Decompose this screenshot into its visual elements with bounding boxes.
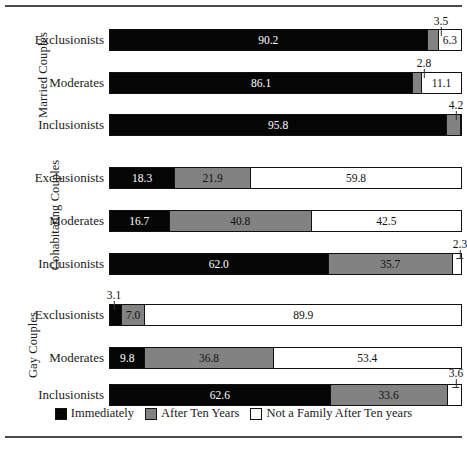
bar-married-moderates[interactable]: 86.1 2.8 11.1 [109, 72, 462, 94]
callout-value: 2.8 [417, 57, 431, 69]
segment-not-a-family[interactable]: 53.4 [274, 348, 461, 368]
legend-item-immediately[interactable]: Immediately [55, 406, 134, 421]
callout-value: 3.6 [449, 367, 463, 379]
segment-value: 42.5 [376, 215, 396, 227]
row-label-gay-inclusionists: Inclusionists [0, 382, 104, 408]
segment-value: 11.1 [432, 77, 452, 89]
segment-value: 40.8 [230, 215, 250, 227]
segment-not-a-family[interactable]: 42.5 [312, 211, 461, 231]
segment-value: 89.9 [293, 309, 313, 321]
segment-value: 21.9 [203, 172, 223, 184]
bar-gay-inclusionists[interactable]: 62.6 33.6 3.6 [109, 384, 462, 406]
segment-value: 53.4 [357, 352, 377, 364]
callout-gay-inclusionists-not-a-family: 3.6 [449, 367, 463, 388]
segment-after-ten-years[interactable]: 33.6 [330, 385, 448, 405]
callout-cohabitating-inclusionists-not-a-family: 2.3 [453, 238, 467, 259]
segment-value: 59.8 [346, 172, 366, 184]
segment-after-ten-years[interactable]: 21.9 [174, 168, 251, 188]
legend-swatch-immediately-icon [55, 408, 67, 420]
table-row: Moderates 86.1 2.8 11.1 2.8 [0, 70, 467, 96]
legend-label-after-ten-years: After Ten Years [161, 406, 239, 421]
table-row: Inclusionists 62.6 33.6 3.6 3.6 [0, 382, 467, 408]
legend-item-not-a-family[interactable]: Not a Family After Ten years [250, 406, 412, 421]
bar-cohabitating-exclusionists[interactable]: 18.3 21.9 59.8 [109, 167, 462, 189]
callout-value: 4.2 [449, 99, 463, 111]
segment-after-ten-years[interactable]: 40.8 [169, 211, 312, 231]
callout-married-moderates-after-ten-years: 2.8 [417, 57, 431, 78]
chart-legend: Immediately After Ten Years Not a Family… [0, 406, 467, 421]
segment-not-a-family[interactable]: 3.6 [448, 385, 461, 405]
segment-immediately[interactable]: 95.8 [110, 115, 446, 135]
row-label-married-exclusionists: Exclusionists [0, 27, 104, 53]
callout-leader-line [460, 250, 461, 259]
bar-gay-exclusionists[interactable]: 3.1 7.0 89.9 [109, 304, 462, 326]
segment-immediately[interactable]: 18.3 [110, 168, 174, 188]
table-row: Inclusionists 62.0 35.7 2.3 2.3 [0, 251, 467, 277]
table-row: Moderates 16.7 40.8 42.5 [0, 208, 467, 234]
callout-value: 2.3 [453, 238, 467, 250]
segment-value: 6.3 [443, 34, 457, 46]
row-label-cohabitating-exclusionists: Exclusionists [0, 165, 104, 191]
segment-value: 90.2 [258, 34, 278, 46]
segment-immediately[interactable]: 86.1 [110, 73, 412, 93]
segment-not-a-family[interactable]: 89.9 [145, 305, 461, 325]
row-label-cohabitating-inclusionists: Inclusionists [0, 251, 104, 277]
callout-value: 3.1 [107, 289, 121, 301]
segment-value: 9.8 [120, 352, 134, 364]
table-row: Exclusionists 90.2 3.5 6.3 3.5 [0, 27, 467, 53]
segment-value: 62.0 [209, 258, 229, 270]
table-row: Exclusionists 3.1 7.0 89.9 3.1 [0, 302, 467, 328]
segment-value: 36.8 [199, 352, 219, 364]
legend-swatch-not-a-family-icon [250, 408, 262, 420]
callout-leader-line [441, 27, 442, 36]
segment-value: 62.6 [210, 389, 230, 401]
row-label-gay-exclusionists: Exclusionists [0, 302, 104, 328]
bottom-rule [5, 436, 462, 438]
segment-value: 35.7 [380, 258, 400, 270]
segment-value: 86.1 [251, 77, 271, 89]
legend-label-not-a-family: Not a Family After Ten years [266, 406, 412, 421]
legend-label-immediately: Immediately [71, 406, 134, 421]
segment-value: 95.8 [268, 119, 288, 131]
callout-value: 3.5 [434, 15, 448, 27]
top-rule [5, 5, 462, 7]
legend-item-after-ten-years[interactable]: After Ten Years [145, 406, 239, 421]
segment-immediately[interactable]: 62.0 [110, 254, 328, 274]
row-label-cohabitating-moderates: Moderates [0, 208, 104, 234]
segment-after-ten-years[interactable]: 7.0 [121, 305, 146, 325]
segment-immediately[interactable]: 90.2 [110, 30, 427, 50]
callout-married-inclusionists-after-ten-years: 4.2 [449, 99, 463, 120]
bar-married-inclusionists[interactable]: 95.8 4.2 [109, 114, 462, 136]
segment-after-ten-years[interactable]: 36.8 [144, 348, 273, 368]
segment-value: 18.3 [132, 172, 152, 184]
callout-leader-line [456, 111, 457, 120]
segment-after-ten-years[interactable]: 35.7 [328, 254, 453, 274]
segment-not-a-family[interactable]: 59.8 [251, 168, 461, 188]
bar-married-exclusionists[interactable]: 90.2 3.5 6.3 [109, 29, 462, 51]
legend-swatch-after-ten-years-icon [145, 408, 157, 420]
segment-value: 16.7 [129, 215, 149, 227]
bar-gay-moderates[interactable]: 9.8 36.8 53.4 [109, 347, 462, 369]
segment-value: 7.0 [126, 309, 140, 321]
callout-leader-line [424, 69, 425, 78]
table-row: Inclusionists 95.8 4.2 4.2 [0, 112, 467, 138]
callout-leader-line [114, 301, 115, 310]
table-row: Moderates 9.8 36.8 53.4 [0, 345, 467, 371]
bar-cohabitating-inclusionists[interactable]: 62.0 35.7 2.3 [109, 253, 462, 275]
callout-married-exclusionists-after-ten-years: 3.5 [434, 15, 448, 36]
bar-cohabitating-moderates[interactable]: 16.7 40.8 42.5 [109, 210, 462, 232]
segment-immediately[interactable]: 62.6 [110, 385, 330, 405]
callout-leader-line [456, 379, 457, 388]
segment-immediately[interactable]: 16.7 [110, 211, 169, 231]
stacked-bar-chart-figure: Married Couples Exclusionists 90.2 3.5 6… [0, 0, 467, 449]
row-label-gay-moderates: Moderates [0, 345, 104, 371]
row-label-married-moderates: Moderates [0, 70, 104, 96]
row-label-married-inclusionists: Inclusionists [0, 112, 104, 138]
table-row: Exclusionists 18.3 21.9 59.8 [0, 165, 467, 191]
segment-immediately[interactable]: 9.8 [110, 348, 144, 368]
callout-gay-exclusionists-immediately: 3.1 [107, 289, 121, 310]
segment-value: 33.6 [379, 389, 399, 401]
